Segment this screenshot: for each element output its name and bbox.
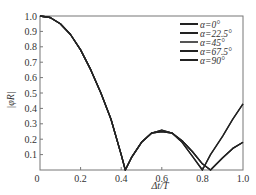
y-tick-label: 0.8 <box>25 41 38 52</box>
y-axis-label: |φR| <box>5 91 16 108</box>
y-tick-label: 0.2 <box>25 134 38 145</box>
y-tick-label: 1.0 <box>25 11 38 22</box>
y-tick-label: 0.5 <box>25 88 38 99</box>
line-chart: 00.20.40.60.81.00.10.20.30.40.50.60.70.8… <box>0 0 256 195</box>
x-tick-label: 0.2 <box>74 173 87 184</box>
x-tick-label: 0 <box>35 173 40 184</box>
legend-label: α=90° <box>200 56 225 66</box>
y-tick-label: 0.6 <box>25 72 38 83</box>
x-axis-label: Δt/T <box>151 180 170 191</box>
legend: α=0°α=22.5°α=45°α=67.5°α=90° <box>180 20 232 66</box>
y-tick-label: 0.1 <box>25 149 38 160</box>
x-tick-label: 1.0 <box>237 173 250 184</box>
y-tick-label: 0.9 <box>25 26 38 37</box>
x-tick-label: 0.4 <box>115 173 128 184</box>
y-tick-label: 0.7 <box>25 57 38 68</box>
y-tick-label: 0.3 <box>25 118 38 129</box>
y-tick-label: 0.4 <box>25 103 38 114</box>
x-tick-label: 0.8 <box>196 173 209 184</box>
